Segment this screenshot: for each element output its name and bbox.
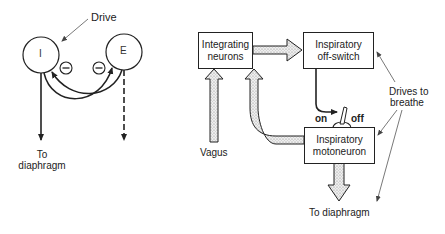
drives-label-line2: breathe — [389, 97, 428, 108]
feedback-arrow — [245, 69, 304, 144]
right-output-label: To diaphragm — [309, 207, 370, 218]
offswitch-to-switch-line — [316, 68, 337, 112]
motoneuron-box: Inspiratory motoneuron — [304, 127, 375, 164]
switch-on-label: on — [315, 113, 327, 124]
vagus-arrow — [205, 69, 223, 142]
drives-pointer-diaphragm — [377, 110, 402, 201]
drives-pointer-motoneuron — [378, 110, 397, 135]
drives-to-breathe-label: Drives to breathe — [389, 86, 428, 108]
drives-pointer-offswitch — [377, 52, 395, 82]
switch-lever — [340, 107, 347, 124]
drive-arrow — [62, 19, 88, 41]
left-output-label: To diaphragm — [18, 149, 66, 171]
left-diagram — [23, 19, 142, 140]
motoneuron-output-arrow — [328, 163, 350, 201]
integrating-to-offswitch-arrow — [253, 39, 302, 61]
integrating-neurons-box: Integrating neurons — [198, 32, 253, 69]
integrating-box-line1: Integrating — [202, 39, 249, 51]
node-i-label: I — [39, 48, 42, 59]
vagus-label: Vagus — [200, 147, 228, 158]
motoneuron-box-line2: motoneuron — [313, 146, 366, 158]
offswitch-box: Inspiratory off-switch — [303, 32, 374, 69]
drive-label: Drive — [91, 12, 117, 23]
drives-label-line1: Drives to — [389, 86, 428, 97]
switch-off-label: off — [351, 113, 364, 124]
left-output-label-line2: diaphragm — [18, 160, 66, 171]
offswitch-box-line2: off-switch — [315, 51, 362, 63]
motoneuron-box-line1: Inspiratory — [313, 134, 366, 146]
integrating-box-line2: neurons — [202, 51, 249, 63]
left-output-label-line1: To — [18, 149, 66, 160]
node-e-label: E — [120, 45, 127, 56]
offswitch-box-line1: Inspiratory — [315, 39, 362, 51]
